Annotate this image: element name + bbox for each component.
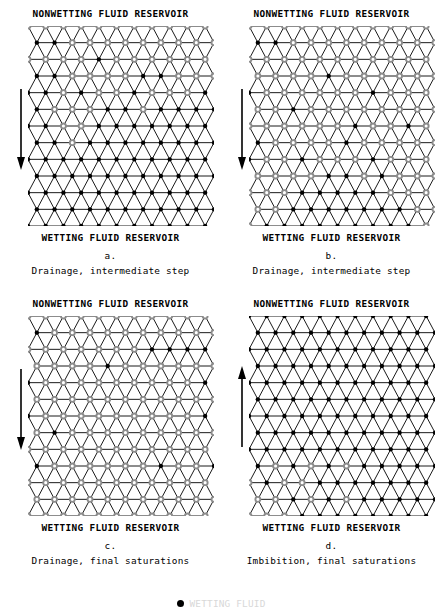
lattice-node-nonwetting (123, 40, 128, 45)
lattice-node-wetting (114, 190, 118, 194)
lattice-node-nonwetting (105, 330, 110, 335)
lattice-node-wetting (168, 224, 172, 226)
lattice-node-nonwetting (132, 480, 137, 485)
lattice-node-nonwetting (203, 26, 208, 29)
lattice-node-wetting (282, 224, 286, 226)
lattice-node-nonwetting (335, 57, 340, 62)
lattice-node-nonwetting (371, 57, 376, 62)
lattice-node-nonwetting (167, 414, 172, 419)
lattice-node-nonwetting (70, 40, 75, 45)
lattice-node-nonwetting (344, 497, 349, 502)
lattice-node-nonwetting (114, 90, 119, 95)
lattice-node-nonwetting (273, 74, 278, 79)
lattice-node-wetting (44, 190, 48, 194)
panel-letter: b. (221, 250, 442, 261)
lattice-node-nonwetting (433, 74, 436, 79)
lattice-node-wetting (159, 140, 163, 144)
lattice-node-nonwetting (291, 174, 296, 179)
lattice-node-wetting (353, 380, 357, 384)
lattice-node-nonwetting (114, 514, 119, 517)
lattice-node-nonwetting (194, 40, 199, 45)
lattice-node-nonwetting (28, 514, 31, 517)
lattice-node-wetting (114, 157, 118, 161)
lattice-node-nonwetting (61, 414, 66, 419)
lattice-node-nonwetting (176, 40, 181, 45)
lattice-node-wetting (159, 464, 163, 468)
lattice-node-nonwetting (79, 124, 84, 129)
lattice-node-nonwetting (132, 347, 137, 352)
lattice-node-wetting (397, 497, 401, 501)
lattice-node-nonwetting (353, 26, 358, 29)
lattice-node-wetting (335, 447, 339, 451)
lattice-node-wetting (282, 347, 286, 351)
lattice-node-nonwetting (96, 447, 101, 452)
lattice-node-wetting (203, 157, 207, 161)
lattice-node-nonwetting (79, 57, 84, 62)
lattice-node-wetting (273, 430, 277, 434)
lattice-node-wetting (150, 157, 154, 161)
legend-row: WETTING FLUID (0, 598, 442, 609)
lattice-node-nonwetting (344, 464, 349, 469)
panel-caption: Drainage, final saturations (0, 555, 221, 566)
lattice-node-wetting (106, 174, 110, 178)
lattice-node-nonwetting (52, 497, 57, 502)
lattice-node-nonwetting (61, 57, 66, 62)
lattice-node-wetting (52, 174, 56, 178)
figure-legend: WETTING FLUID (0, 598, 442, 609)
panel-caption: Imbibition, final saturations (221, 555, 442, 566)
lattice-node-nonwetting (79, 316, 84, 319)
lattice-node-wetting (309, 397, 313, 401)
lattice-node-nonwetting (88, 330, 93, 335)
lattice-node-wetting (194, 107, 198, 111)
lattice-node-nonwetting (158, 330, 163, 335)
lattice-node-wetting (168, 190, 172, 194)
lattice-node-nonwetting (335, 157, 340, 162)
lattice-node-wetting (106, 207, 110, 211)
lattice-node-nonwetting (114, 447, 119, 452)
filled-circle-icon (177, 600, 184, 607)
lattice-node-wetting (212, 464, 214, 468)
lattice-node-nonwetting (114, 347, 119, 352)
lattice-node-nonwetting (158, 397, 163, 402)
lattice-node-wetting (256, 430, 260, 434)
lattice-node-nonwetting (43, 414, 48, 419)
lattice-node-wetting (415, 497, 419, 501)
lattice-node-wetting (212, 174, 214, 178)
lattice-node-nonwetting (150, 90, 155, 95)
lattice-node-nonwetting (424, 224, 429, 227)
lattice-node-nonwetting (388, 190, 393, 195)
lattice-node-nonwetting (249, 57, 252, 62)
lattice-node-wetting (389, 447, 393, 451)
lattice-node-nonwetting (282, 57, 287, 62)
lattice-node-wetting (35, 107, 39, 111)
lattice-node-nonwetting (52, 330, 57, 335)
lattice-node-wetting (300, 347, 304, 351)
lattice-node-nonwetting (141, 364, 146, 369)
lattice-node-nonwetting (212, 74, 215, 79)
lattice-node-nonwetting (212, 430, 215, 435)
lattice-node-wetting (389, 514, 393, 516)
lattice-node-nonwetting (61, 316, 66, 319)
lattice-node-wetting (380, 397, 384, 401)
lattice-node-nonwetting (167, 514, 172, 517)
lattice-node-wetting (52, 40, 56, 44)
lattice-node-nonwetting (406, 26, 411, 29)
lattice-node-nonwetting (167, 57, 172, 62)
lattice-node-wetting (389, 347, 393, 351)
lattice-node-nonwetting (88, 430, 93, 435)
lattice-node-nonwetting (34, 497, 39, 502)
panel-letter: a. (0, 250, 221, 261)
lattice-node-nonwetting (96, 480, 101, 485)
lattice-node-wetting (61, 224, 65, 226)
lattice-node-nonwetting (282, 480, 287, 485)
lattice-node-nonwetting (176, 464, 181, 469)
lattice-node-nonwetting (105, 397, 110, 402)
lattice-node-wetting (406, 480, 410, 484)
lattice-node-wetting (203, 224, 207, 226)
lattice-node-nonwetting (291, 74, 296, 79)
lattice-node-wetting (397, 397, 401, 401)
lattice-node-nonwetting (123, 364, 128, 369)
lattice-node-nonwetting (424, 190, 429, 195)
lattice-node-wetting (61, 157, 65, 161)
lattice-node-nonwetting (309, 497, 314, 502)
